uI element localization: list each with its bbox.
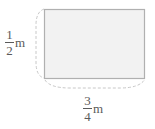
height-brace: [36, 9, 44, 78]
rectangle-diagram: [0, 0, 155, 129]
height-label: 1 2 m: [5, 28, 25, 57]
width-unit: m: [93, 101, 103, 117]
rectangle: [45, 10, 145, 79]
width-numerator: 3: [83, 94, 92, 107]
width-denominator: 4: [83, 110, 92, 123]
width-label: 3 4 m: [83, 94, 103, 123]
height-denominator: 2: [5, 44, 14, 57]
height-numerator: 1: [5, 28, 14, 41]
width-brace: [45, 79, 145, 88]
height-unit: m: [15, 35, 25, 51]
